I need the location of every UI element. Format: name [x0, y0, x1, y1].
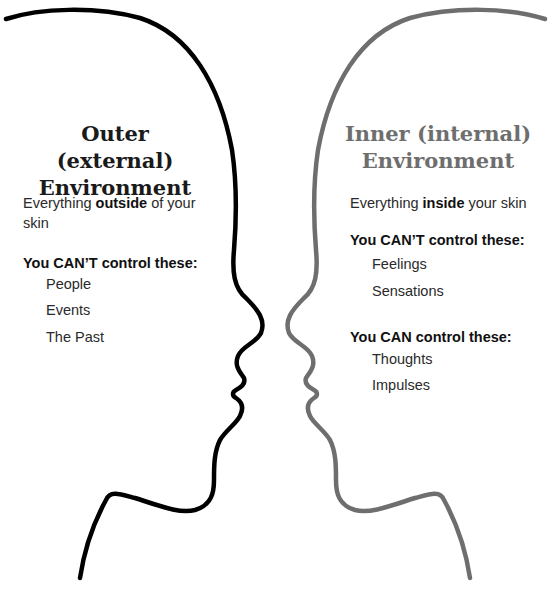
inner-desc-pre: Everything — [350, 195, 423, 211]
outer-cant-item: People — [46, 276, 91, 292]
inner-title-line2: Environment — [338, 147, 538, 174]
outer-head-profile-icon — [6, 10, 263, 578]
inner-cant-item: Sensations — [372, 283, 444, 299]
inner-desc-post: your skin — [464, 195, 526, 211]
inner-can-item: Thoughts — [372, 351, 432, 367]
inner-title-line1: Inner (internal) — [338, 120, 538, 147]
outer-cant-control-heading: You CAN’T control these: — [23, 255, 198, 271]
outer-description: Everything outside of your skin — [23, 193, 213, 233]
inner-can-control-heading: You CAN control these: — [350, 329, 512, 345]
inner-desc-bold: inside — [423, 195, 465, 211]
environment-diagram: Outer (external) Environment Everything … — [0, 0, 550, 590]
outer-cant-item: Events — [46, 302, 90, 318]
outer-environment-title: Outer (external) Environment — [20, 120, 210, 201]
head-profiles — [0, 0, 550, 590]
outer-title-line1: Outer (external) — [20, 120, 210, 174]
outer-cant-item: The Past — [46, 329, 104, 345]
inner-environment-title: Inner (internal) Environment — [338, 120, 538, 174]
inner-can-item: Impulses — [372, 377, 430, 393]
inner-description: Everything inside your skin — [350, 193, 550, 213]
outer-desc-bold: outside — [96, 195, 148, 211]
inner-cant-control-heading: You CAN’T control these: — [350, 232, 525, 248]
inner-cant-item: Feelings — [372, 256, 427, 272]
outer-desc-pre: Everything — [23, 195, 96, 211]
